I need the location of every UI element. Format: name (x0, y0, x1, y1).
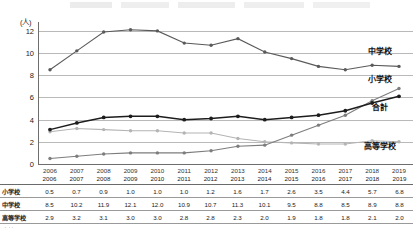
table-col-header-2017: 2017 (332, 172, 359, 185)
table-cell-小学校-2014: 1.7 (251, 185, 278, 198)
table-cell-中学校-2009: 12.1 (117, 198, 144, 211)
marker-小学校-2009 (129, 151, 132, 154)
marker-中学校-2014 (263, 50, 266, 53)
table-cell-中学校-2019: 8.8 (386, 198, 413, 211)
series-line-合計 (50, 96, 399, 129)
table-row: 中学校8.510.211.912.112.010.910.711.310.19.… (0, 198, 413, 211)
table-col-header-2007: 2007 (63, 172, 90, 185)
table-cell-高等学校-2010: 3.0 (144, 211, 171, 224)
table-row-label-小学校: 小学校 (0, 185, 36, 198)
table-cell-中学校-2014: 10.1 (251, 198, 278, 211)
table-cell-合計-2019: 6.1 (386, 224, 413, 229)
marker-高等学校-2009 (129, 129, 132, 132)
table-body: 小学校0.50.70.91.01.01.01.21.61.72.63.54.45… (0, 185, 413, 229)
marker-小学校-2015 (290, 133, 293, 136)
table-cell-小学校-2008: 0.9 (90, 185, 117, 198)
table-cell-高等学校-2006: 2.9 (36, 211, 63, 224)
marker-高等学校-2013 (236, 137, 239, 140)
table-cell-小学校-2019: 6.8 (386, 185, 413, 198)
marker-合計-2010 (155, 114, 159, 118)
table-header: 2006200720082009201020112012201320142015… (0, 172, 413, 185)
marker-小学校-2019 (397, 87, 400, 90)
table-cell-高等学校-2007: 3.2 (63, 211, 90, 224)
marker-合計-2019 (397, 94, 401, 98)
table-row: 高等学校2.93.23.13.03.02.82.82.32.01.91.81.8… (0, 211, 413, 224)
marker-中学校-2012 (209, 44, 212, 47)
marker-高等学校-2012 (209, 131, 212, 134)
table-cell-中学校-2012: 10.7 (197, 198, 224, 211)
series-label-中学校: 中学校 (368, 45, 392, 56)
marker-小学校-2007 (75, 155, 78, 158)
marker-合計-2015 (290, 116, 294, 120)
table-col-header-2012: 2012 (197, 172, 224, 185)
table-row-label-中学校: 中学校 (0, 198, 36, 211)
marker-中学校-2007 (75, 49, 78, 52)
table-cell-合計-2012: 4.1 (197, 224, 224, 229)
table-col-header-2008: 2008 (90, 172, 117, 185)
marker-小学校-2012 (209, 149, 212, 152)
data-table: 2006200720082009201020112012201320142015… (0, 172, 413, 228)
table-col-header-2018: 2018 (359, 172, 386, 185)
table-cell-高等学校-2018: 2.1 (359, 211, 386, 224)
marker-高等学校-2017 (344, 142, 347, 145)
series-line-高等学校 (50, 129, 399, 145)
marker-中学校-2009 (129, 28, 132, 31)
table-col-header-2010: 2010 (144, 172, 171, 185)
marker-合計-2016 (317, 113, 321, 117)
table-cell-中学校-2007: 10.2 (63, 198, 90, 211)
marker-合計-2009 (129, 114, 133, 118)
marker-中学校-2019 (397, 65, 400, 68)
table-cell-合計-2006: 3.1 (36, 224, 63, 229)
table-col-header-2006: 2006 (36, 172, 63, 185)
table-cell-高等学校-2009: 3.0 (117, 211, 144, 224)
marker-小学校-2008 (102, 152, 105, 155)
table-cell-中学校-2008: 11.9 (90, 198, 117, 211)
marker-中学校-2013 (236, 37, 239, 40)
table-cell-高等学校-2016: 1.8 (305, 211, 332, 224)
table-corner-cell (0, 172, 36, 185)
marker-中学校-2011 (183, 41, 186, 44)
series-line-小学校 (50, 89, 399, 159)
series-label-小学校: 小学校 (368, 73, 392, 84)
table-header-row: 2006200720082009201020112012201320142015… (0, 172, 413, 185)
table-col-header-2009: 2009 (117, 172, 144, 185)
marker-中学校-2018 (370, 64, 373, 67)
marker-小学校-2016 (317, 123, 320, 126)
marker-高等学校-2016 (317, 142, 320, 145)
table-row-label-合計: 合計 (0, 224, 36, 229)
table-cell-合計-2017: 4.8 (332, 224, 359, 229)
marker-中学校-2016 (317, 65, 320, 68)
table-cell-小学校-2011: 1.0 (171, 185, 197, 198)
marker-高等学校-2019 (397, 140, 400, 143)
marker-小学校-2006 (48, 157, 51, 160)
table-cell-高等学校-2012: 2.8 (197, 211, 224, 224)
table-cell-小学校-2017: 4.4 (332, 185, 359, 198)
table-row: 合計3.13.74.24.34.34.04.14.34.04.24.44.85.… (0, 224, 413, 229)
table-cell-高等学校-2017: 1.8 (332, 211, 359, 224)
table-col-header-2016: 2016 (305, 172, 332, 185)
table-cell-中学校-2010: 12.0 (144, 198, 171, 211)
marker-小学校-2013 (236, 145, 239, 148)
table-col-header-2019: 2019 (386, 172, 413, 185)
marker-高等学校-2010 (156, 129, 159, 132)
table-cell-小学校-2007: 0.7 (63, 185, 90, 198)
marker-小学校-2010 (156, 151, 159, 154)
table-cell-中学校-2018: 8.9 (359, 198, 386, 211)
line-chart: (人) 024681012 20062007200820092010201120… (0, 0, 413, 166)
table-cell-小学校-2010: 1.0 (144, 185, 171, 198)
table-cell-中学校-2011: 10.9 (171, 198, 197, 211)
table-col-header-2015: 2015 (278, 172, 305, 185)
table-cell-高等学校-2015: 1.9 (278, 211, 305, 224)
table-cell-合計-2018: 5.5 (359, 224, 386, 229)
table-cell-高等学校-2019: 2.0 (386, 211, 413, 224)
marker-合計-2007 (75, 121, 79, 125)
table-cell-中学校-2016: 8.8 (305, 198, 332, 211)
marker-高等学校-2011 (183, 131, 186, 134)
marker-中学校-2015 (290, 57, 293, 60)
table-cell-中学校-2013: 11.3 (224, 198, 251, 211)
marker-中学校-2010 (156, 29, 159, 32)
table-cell-合計-2009: 4.3 (117, 224, 144, 229)
table-col-header-2011: 2011 (171, 172, 197, 185)
marker-合計-2008 (102, 116, 106, 120)
marker-小学校-2011 (183, 151, 186, 154)
